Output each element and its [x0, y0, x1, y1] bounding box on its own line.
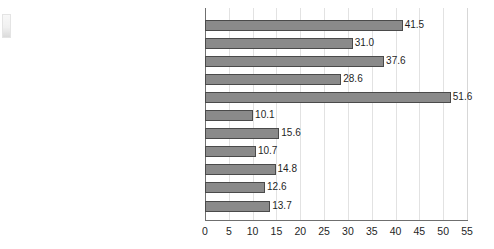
x-tick-label-45: 45 [414, 224, 426, 238]
x-axis-tick-labels: 0510152025303540455055 [0, 224, 494, 240]
bar[interactable] [205, 38, 353, 49]
bar[interactable] [205, 128, 279, 139]
gridline-55 [467, 8, 468, 220]
bar[interactable] [205, 56, 384, 67]
bar-value-label: 14.8 [278, 162, 297, 175]
x-tick-label-10: 10 [247, 224, 259, 238]
bar-value-label: 51.6 [453, 90, 472, 103]
x-tick-label-35: 35 [366, 224, 378, 238]
bar-row[interactable]: Unattached male28.6 [205, 68, 467, 86]
bar-value-label: 12.6 [267, 180, 286, 193]
bar-row[interactable]: 65+ males31.0 [205, 32, 467, 50]
bar[interactable] [205, 201, 270, 212]
plot-area: 65+ females41.565+ males31.0Unattached f… [205, 8, 467, 220]
bar-row[interactable]: Unattached female37.6 [205, 50, 467, 68]
x-tick-label-55: 55 [461, 224, 473, 238]
x-tick-label-25: 25 [318, 224, 330, 238]
horizontal-bar-chart: 65+ females41.565+ males31.0Unattached f… [0, 0, 494, 249]
bar[interactable] [205, 92, 451, 103]
x-tick-label-0: 0 [202, 224, 208, 238]
bar[interactable] [205, 110, 253, 121]
bar-value-label: 10.1 [255, 108, 274, 121]
bar[interactable] [205, 164, 276, 175]
x-tick-label-50: 50 [437, 224, 449, 238]
x-tick-label-30: 30 [342, 224, 354, 238]
bar-value-label: 28.6 [343, 72, 362, 85]
bar-value-label: 15.6 [281, 126, 300, 139]
bar[interactable] [205, 74, 341, 85]
bar-row[interactable]: Under 18 in female lone-parent families5… [205, 86, 467, 104]
bar-row[interactable]: All females14.8 [205, 158, 467, 176]
x-tick-label-15: 15 [271, 224, 283, 238]
x-tick-label-40: 40 [390, 224, 402, 238]
bar[interactable] [205, 146, 256, 157]
x-tick-label-20: 20 [294, 224, 306, 238]
bar-row[interactable]: All persons13.7 [205, 195, 467, 213]
bar[interactable] [205, 20, 403, 31]
x-axis-line [205, 220, 468, 221]
bar-value-label: 10.7 [258, 144, 277, 157]
bar-row[interactable]: 65+ females41.5 [205, 14, 467, 32]
bar[interactable] [205, 182, 265, 193]
bar-row[interactable]: Under 18 in two-parent families10.1 [205, 104, 467, 122]
bar-value-label: 41.5 [405, 18, 424, 31]
x-tick-label-5: 5 [226, 224, 232, 238]
bar-row[interactable]: All males12.6 [205, 176, 467, 194]
bar-value-label: 13.7 [272, 199, 291, 212]
bar-value-label: 37.6 [386, 54, 405, 67]
bar-row[interactable]: Persons in economic families10.7 [205, 140, 467, 158]
bar-value-label: 31.0 [355, 36, 374, 49]
bar-row[interactable]: Persons under 18 years of age15.6 [205, 122, 467, 140]
